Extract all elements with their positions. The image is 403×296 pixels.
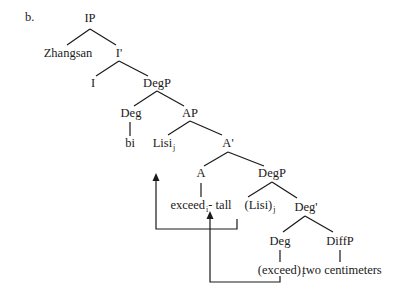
node-a-bar: A' <box>222 136 233 150</box>
node-degp-upper: DegP <box>143 76 171 90</box>
tree-branches <box>0 0 403 296</box>
node-diffp: DiffP <box>326 234 354 248</box>
node-two-centimeters: two centimeters <box>302 263 382 277</box>
node-exceed-tall: exceedi- tall <box>170 198 231 217</box>
lisi-text: Lisi <box>153 136 172 150</box>
exceed-text: exceed <box>170 198 205 212</box>
example-label: b. <box>25 10 34 25</box>
node-deg-bar: Deg' <box>294 200 317 214</box>
lisi-trace-index: j <box>273 205 275 214</box>
exceed-trace-text: (exceed) <box>258 263 301 277</box>
node-deg-upper: Deg <box>121 106 142 120</box>
node-lisi-trace: (Lisi)j <box>244 198 275 217</box>
node-a: A <box>196 166 205 180</box>
node-degp-lower: DegP <box>258 166 286 180</box>
node-lisi: Lisij <box>153 136 176 155</box>
node-deg-lower: Deg <box>270 234 291 248</box>
node-i-bar: I' <box>116 46 122 60</box>
node-zhangsan: Zhangsan <box>44 46 93 60</box>
node-bi: bi <box>125 136 135 150</box>
lisi-trace-text: (Lisi) <box>244 198 272 212</box>
arrowhead-icon <box>153 173 160 181</box>
lisi-index: j <box>173 143 175 152</box>
tall-text: - tall <box>208 198 231 212</box>
node-i: I <box>91 76 95 90</box>
node-ap: AP <box>182 106 198 120</box>
node-ip: IP <box>84 11 95 25</box>
node-exceed-trace: (exceed)i <box>258 263 304 282</box>
